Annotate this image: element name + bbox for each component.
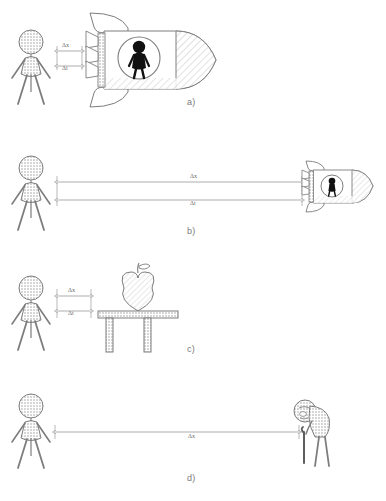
dimension-arrows-a xyxy=(57,46,82,70)
dim-label-delta-t-c: Δt xyxy=(68,309,74,316)
apple xyxy=(122,263,154,311)
stick-figure-observer xyxy=(12,394,50,468)
panel-b xyxy=(12,156,373,230)
panel-d xyxy=(12,394,330,468)
dim-label-delta-t-a: Δt xyxy=(62,64,68,71)
dimension-arrows-d xyxy=(55,425,299,439)
rocket-large xyxy=(86,13,216,107)
dim-label-delta-t-b: Δt xyxy=(190,199,196,206)
dimension-arrows-b xyxy=(57,176,302,206)
panel-label-d: d) xyxy=(187,473,195,483)
panel-c xyxy=(12,263,178,352)
dimension-arrows-c xyxy=(57,289,91,318)
panel-a xyxy=(12,13,216,107)
dim-label-delta-x-c: Δx xyxy=(68,286,75,293)
stick-figure-observer xyxy=(12,156,50,230)
panel-label-c: c) xyxy=(187,344,195,354)
dim-label-delta-x-d: Δx xyxy=(188,432,195,439)
table xyxy=(98,311,178,352)
rocket-small xyxy=(302,161,373,212)
dim-label-delta-x-b: Δx xyxy=(190,172,197,179)
stick-figure-observer xyxy=(12,30,50,104)
panel-label-a: a) xyxy=(187,97,195,107)
dim-label-delta-x-a: Δx xyxy=(62,41,69,48)
panel-label-b: b) xyxy=(187,226,195,236)
physics-figure xyxy=(0,0,386,501)
stick-figure-observer xyxy=(12,276,50,350)
